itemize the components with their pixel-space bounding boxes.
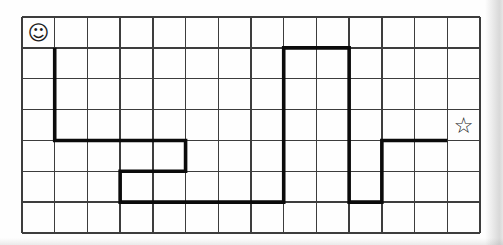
star-goal-icon: ☆ <box>454 113 474 138</box>
smiley-start-icon: ☺ <box>27 21 49 45</box>
worksheet-page: ☺ ☆ <box>0 0 503 245</box>
path-grid-puzzle: ☺ ☆ <box>0 0 503 245</box>
